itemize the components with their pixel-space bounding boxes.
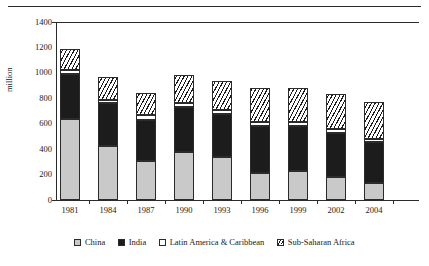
bar-segment[interactable]: [174, 103, 194, 107]
bar-segment[interactable]: [288, 171, 308, 200]
x-tick-mark: [393, 200, 394, 204]
y-tick-text: 1400: [26, 18, 52, 27]
legend-swatch-icon: [277, 239, 284, 246]
x-tick-mark: [127, 200, 128, 204]
y-tick-text: 1200: [26, 43, 52, 52]
x-tick-label-1987: 1987: [126, 206, 166, 215]
bar-segment[interactable]: [288, 126, 308, 171]
y-tick-text: 800: [26, 94, 52, 103]
legend-item-1[interactable]: India: [118, 238, 146, 247]
bar-segment[interactable]: [364, 102, 384, 139]
x-tick-mark: [241, 200, 242, 204]
legend-item-3[interactable]: Sub-Saharan Africa: [277, 238, 354, 247]
x-axis-line: [56, 200, 419, 201]
y-axis-title: million: [4, 67, 14, 92]
bar-segment[interactable]: [326, 133, 346, 177]
bar-segment[interactable]: [174, 152, 194, 200]
y-tick-label-1400: 1400: [22, 18, 52, 27]
bar-segment[interactable]: [212, 110, 232, 114]
bar-segment[interactable]: [288, 122, 308, 126]
bar-segment[interactable]: [288, 88, 308, 123]
legend-swatch-icon: [74, 239, 81, 246]
legend-item-0[interactable]: China: [74, 238, 105, 247]
bar-segment[interactable]: [98, 146, 118, 200]
legend-label: China: [85, 238, 105, 247]
y-tick-text: 1000: [26, 68, 52, 77]
bar-segment[interactable]: [326, 177, 346, 200]
y-tick-label-0: 0: [22, 196, 52, 205]
y-tick-label-800: 800: [22, 94, 52, 103]
bar-segment[interactable]: [212, 157, 232, 200]
x-tick-label-1996: 1996: [240, 206, 280, 215]
bar-segment[interactable]: [60, 119, 80, 200]
y-tick-mark-1400: [52, 22, 56, 23]
x-tick-mark: [203, 200, 204, 204]
bar-segment[interactable]: [60, 49, 80, 70]
bar-segment[interactable]: [136, 115, 156, 119]
bar-segment[interactable]: [212, 81, 232, 110]
bar-segment[interactable]: [136, 120, 156, 161]
x-tick-mark: [279, 200, 280, 204]
bar-segment[interactable]: [60, 74, 80, 120]
legend-label: India: [129, 238, 146, 247]
y-tick-mark-0: [52, 200, 56, 201]
x-tick-label-2002: 2002: [316, 206, 356, 215]
y-tick-label-400: 400: [22, 145, 52, 154]
x-tick-label-1984: 1984: [88, 206, 128, 215]
x-tick-label-1993: 1993: [202, 206, 242, 215]
x-tick-mark: [317, 200, 318, 204]
x-tick-label-1999: 1999: [278, 206, 318, 215]
y-tick-text: 0: [26, 196, 52, 205]
gridline-1400: [56, 22, 419, 23]
y-tick-label-200: 200: [22, 170, 52, 179]
legend-swatch-icon: [118, 239, 125, 246]
y-tick-text: 600: [26, 119, 52, 128]
legend-label: Latin America & Caribbean: [170, 238, 265, 247]
bar-segment[interactable]: [364, 183, 384, 200]
x-tick-label-1981: 1981: [50, 206, 90, 215]
bar-segment[interactable]: [98, 100, 118, 103]
legend-swatch-icon: [159, 239, 166, 246]
x-tick-label-2004: 2004: [354, 206, 394, 215]
bar-segment[interactable]: [174, 107, 194, 152]
bar-segment[interactable]: [326, 94, 346, 130]
bar-segment[interactable]: [212, 114, 232, 157]
bar-segment[interactable]: [98, 103, 118, 146]
bar-segment[interactable]: [98, 77, 118, 99]
y-tick-label-600: 600: [22, 119, 52, 128]
bar-segment[interactable]: [60, 70, 80, 73]
bar-segment[interactable]: [136, 161, 156, 200]
legend-label: Sub-Saharan Africa: [288, 238, 355, 247]
bar-segment[interactable]: [326, 129, 346, 133]
x-tick-label-1990: 1990: [164, 206, 204, 215]
y-tick-label-1000: 1000: [22, 68, 52, 77]
bar-segment[interactable]: [250, 122, 270, 126]
bar-segment[interactable]: [250, 88, 270, 122]
bar-segment[interactable]: [136, 93, 156, 116]
bar-segment[interactable]: [174, 75, 194, 102]
y-tick-text: 200: [26, 170, 52, 179]
y-axis-line: [56, 22, 57, 200]
y-tick-text: 400: [26, 145, 52, 154]
figure: million 1400120010008006004002000 198119…: [0, 0, 429, 266]
x-tick-mark: [355, 200, 356, 204]
x-tick-mark: [89, 200, 90, 204]
bar-segment[interactable]: [250, 173, 270, 200]
bar-segment[interactable]: [364, 142, 384, 183]
bar-segment[interactable]: [364, 139, 384, 142]
legend-item-2[interactable]: Latin America & Caribbean: [159, 238, 264, 247]
legend: ChinaIndiaLatin America & CaribbeanSub-S…: [0, 238, 429, 247]
x-tick-mark: [165, 200, 166, 204]
bar-segment[interactable]: [250, 126, 270, 174]
y-tick-label-1200: 1200: [22, 43, 52, 52]
plot-area: million 1400120010008006004002000 198119…: [0, 0, 429, 226]
